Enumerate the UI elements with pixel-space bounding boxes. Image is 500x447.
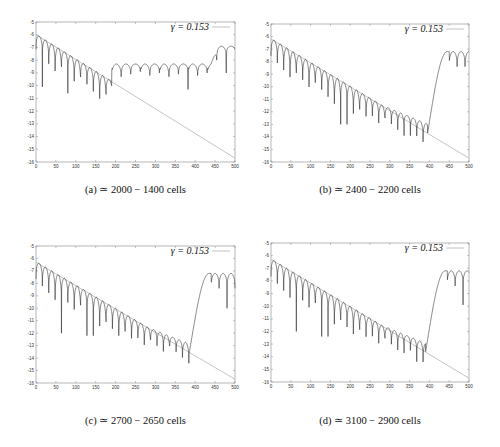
x-tick-label: 300 [386,384,394,389]
y-tick-label: -5 [265,241,269,246]
caption-d: (d) ≃ 3100 − 2900 cells [271,414,469,426]
y-tick-label: -16 [262,380,269,385]
x-tick-label: 250 [366,384,374,389]
x-tick-label: 450 [445,384,453,389]
y-tick-label: -10 [262,304,269,309]
plot-frame [271,243,469,382]
x-tick-label: 150 [327,384,335,389]
y-tick-label: -8 [265,278,269,283]
panel-d: 050100150200250300350400450500-5-6-7-8-9… [0,0,500,447]
y-tick-label: -7 [265,266,269,271]
x-tick-label: 200 [346,384,354,389]
y-tick-label: -6 [265,253,269,258]
x-tick-label: 350 [406,384,414,389]
y-tick-label: -9 [265,291,269,296]
x-tick-label: 400 [426,384,434,389]
x-tick-label: 50 [288,384,294,389]
y-tick-label: -15 [262,367,269,372]
y-tick-label: -14 [262,354,269,359]
x-tick-label: 100 [307,384,315,389]
chart-d: 050100150200250300350400450500-5-6-7-8-9… [0,0,500,400]
signal-curve [271,261,469,362]
legend-label: γ = 0.153 [405,242,443,253]
y-tick-label: -11 [263,316,270,321]
x-tick-label: 500 [465,384,473,389]
y-tick-label: -12 [262,329,269,334]
y-tick-label: -13 [262,342,269,347]
x-tick-label: 0 [270,384,273,389]
